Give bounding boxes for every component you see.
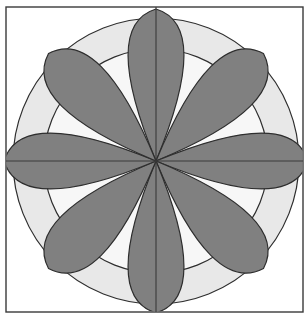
pattern-canvas bbox=[0, 0, 306, 322]
quilt-block-diagram bbox=[0, 0, 306, 322]
